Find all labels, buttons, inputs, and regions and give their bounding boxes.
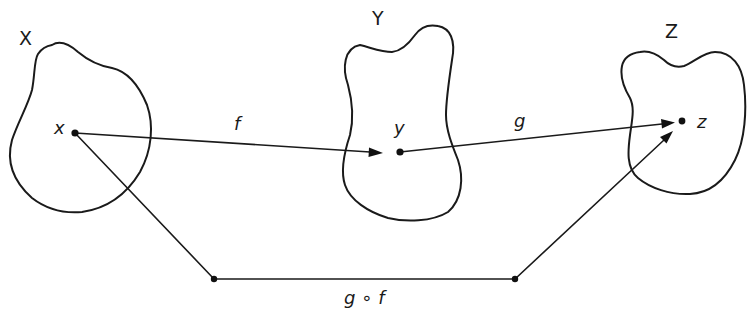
- element-z-label: z: [696, 111, 707, 132]
- map-g-arrowhead-icon: [661, 119, 675, 129]
- element-y-label: y: [393, 117, 405, 138]
- map-g: g: [400, 110, 675, 152]
- map-g-line: [400, 124, 662, 152]
- set-x-outline: [10, 43, 151, 212]
- map-g-label: g: [514, 110, 525, 131]
- map-gof-label: g ∘ f: [344, 287, 387, 308]
- element-y: y: [393, 117, 405, 156]
- map-f: f: [75, 113, 383, 157]
- map-gof: g ∘ f: [75, 131, 673, 308]
- element-x-point: [71, 129, 78, 136]
- set-y: Y: [343, 7, 461, 220]
- map-gof-corner-right: [512, 276, 518, 282]
- element-y-point: [396, 148, 403, 155]
- element-z-point: [679, 118, 686, 125]
- map-gof-corner-left: [211, 276, 217, 282]
- element-x: x: [53, 117, 79, 138]
- map-f-arrowhead-icon: [369, 148, 384, 158]
- element-z: z: [679, 111, 707, 132]
- set-y-label: Y: [371, 7, 384, 29]
- element-x-label: x: [53, 117, 65, 138]
- map-f-line: [75, 133, 370, 152]
- map-f-label: f: [234, 113, 243, 134]
- set-x: X: [10, 27, 151, 212]
- set-x-label: X: [19, 27, 32, 49]
- set-z-label: Z: [665, 20, 678, 42]
- composition-diagram: X Y Z f g g ∘ f x y z: [0, 0, 747, 310]
- set-z: Z: [621, 20, 745, 194]
